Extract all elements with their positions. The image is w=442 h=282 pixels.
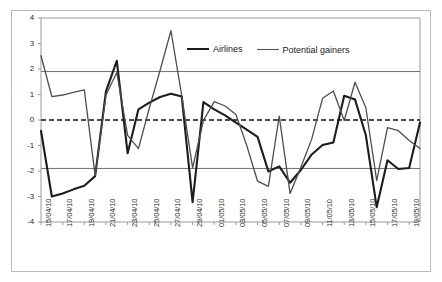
x-axis-tick-label: 07/05/10 [283, 199, 291, 227]
x-axis-tick-label: 19/04/10 [88, 199, 96, 227]
y-axis-tick-label: 3 [20, 40, 34, 48]
legend-label: Potential gainers [283, 45, 350, 55]
x-axis-tick-label: 15/04/10 [45, 199, 53, 227]
x-axis-tick-label: 17/04/10 [66, 199, 74, 227]
x-axis-tick-label: 11/05/10 [326, 199, 334, 227]
x-axis-tick-label: 05/05/10 [261, 199, 269, 227]
x-axis-tick-label: 13/05/10 [348, 199, 356, 227]
legend-line-icon [257, 49, 279, 50]
legend-line-icon [187, 48, 209, 50]
y-axis-tick-label: -4 [20, 218, 34, 226]
chart-frame: 43210-1-2-3-4 15/04/1017/04/1019/04/1021… [11, 10, 431, 272]
x-axis-tick-label: 21/04/10 [109, 199, 117, 227]
y-axis-tick-label: -3 [20, 193, 34, 201]
x-axis-tick-label: 25/04/10 [153, 199, 161, 227]
x-axis-tick-label: 03/05/10 [239, 199, 247, 227]
x-axis-tick-label: 09/05/10 [304, 199, 312, 227]
y-axis-tick-label: 0 [20, 116, 34, 124]
x-axis-tick-label: 01/05/10 [218, 199, 226, 227]
y-axis-tick-label: -1 [20, 142, 34, 150]
chart-container: 43210-1-2-3-4 15/04/1017/04/1019/04/1021… [0, 0, 442, 282]
x-axis-tick-label: 29/04/10 [196, 199, 204, 227]
chart-legend: AirlinesPotential gainers [187, 42, 364, 55]
legend-entry: Potential gainers [257, 45, 350, 55]
x-axis-tick-label: 17/05/10 [391, 199, 399, 227]
y-axis-tick-label: 4 [20, 14, 34, 22]
legend-entry: Airlines [187, 44, 243, 54]
y-axis-tick-label: 1 [20, 91, 34, 99]
x-axis-tick-label: 23/04/10 [131, 199, 139, 227]
y-axis-tick-label: -2 [20, 167, 34, 175]
x-axis-tick-label: 27/04/10 [174, 199, 182, 227]
x-axis-tick-label: 19/05/10 [413, 199, 421, 227]
legend-label: Airlines [213, 44, 243, 54]
x-axis-tick-label: 15/05/10 [369, 199, 377, 227]
y-axis-tick-label: 2 [20, 65, 34, 73]
